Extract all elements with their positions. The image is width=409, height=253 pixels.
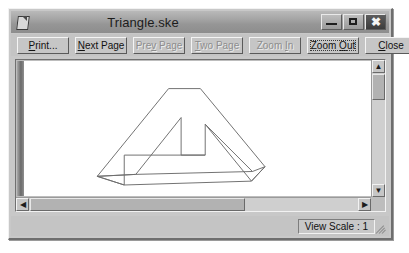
preview-client-area: More self-assembly furniture? ▲ ▼ ◀ ▶	[15, 59, 386, 212]
penrose-triangle-drawing	[24, 83, 371, 196]
drawing-caption: More self-assembly furniture?	[94, 195, 203, 196]
print-preview-window: Triangle.ske ✖ Print... Next Page Prev P…	[8, 8, 393, 240]
vertical-scrollbar[interactable]: ▲ ▼	[371, 60, 385, 197]
vertical-scroll-thumb[interactable]	[372, 74, 385, 100]
document-icon	[15, 15, 31, 30]
maximize-button[interactable]	[343, 14, 364, 30]
print-button-label: Print...	[29, 40, 58, 51]
minimize-icon	[326, 23, 337, 25]
page-edge-shadow	[17, 61, 24, 196]
window-title: Triangle.ske	[31, 15, 321, 30]
horizontal-scroll-thumb[interactable]	[30, 198, 245, 211]
horizontal-scrollbar[interactable]: ◀ ▶	[16, 197, 371, 211]
preview-page: More self-assembly furniture?	[24, 61, 371, 196]
scroll-left-icon[interactable]: ◀	[16, 198, 29, 211]
close-button-label: Close	[378, 40, 404, 51]
prev-page-button: Prev Page	[133, 37, 185, 54]
prev-page-button-label: Prev Page	[136, 40, 183, 51]
next-page-button-label: Next Page	[78, 40, 125, 51]
next-page-button[interactable]: Next Page	[75, 37, 127, 54]
zoom-out-button-label: Zoom Out	[311, 40, 355, 51]
zoom-in-button: Zoom In	[249, 37, 301, 54]
two-page-button-label: Two Page	[195, 40, 239, 51]
status-bar: View Scale : 1	[11, 216, 389, 236]
close-window-button[interactable]: ✖	[365, 14, 386, 30]
zoom-in-button-label: Zoom In	[257, 40, 294, 51]
resize-grip-icon[interactable]	[374, 221, 388, 235]
close-icon: ✖	[366, 15, 385, 29]
print-button[interactable]: Print...	[17, 37, 69, 54]
close-button[interactable]: Close	[365, 37, 409, 54]
maximize-icon	[349, 18, 357, 25]
scroll-down-icon[interactable]: ▼	[372, 184, 385, 197]
scroll-right-icon[interactable]: ▶	[358, 198, 371, 211]
title-bar[interactable]: Triangle.ske ✖	[11, 11, 389, 33]
view-scale-status: View Scale : 1	[298, 219, 375, 234]
scroll-up-icon[interactable]: ▲	[372, 60, 385, 73]
two-page-button: Two Page	[191, 37, 243, 54]
preview-toolbar: Print... Next Page Prev Page Two Page Zo…	[11, 34, 389, 56]
minimize-button[interactable]	[321, 14, 342, 30]
zoom-out-button[interactable]: Zoom Out	[307, 37, 359, 54]
